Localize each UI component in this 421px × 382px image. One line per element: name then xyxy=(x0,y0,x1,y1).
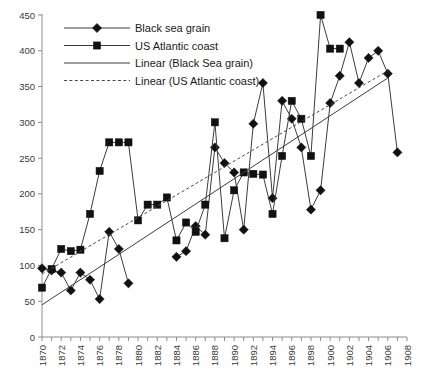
y-tick-label: 300 xyxy=(19,117,35,128)
data-point-black-sea-grain xyxy=(354,78,363,87)
data-point-us-atlantic-coast xyxy=(250,170,257,177)
x-tick-label: 1880 xyxy=(133,345,144,366)
data-point-us-atlantic-coast xyxy=(48,265,55,272)
data-point-us-atlantic-coast xyxy=(38,284,45,291)
y-tick-label: 350 xyxy=(19,81,35,92)
data-point-black-sea-grain xyxy=(124,279,133,288)
x-tick-label: 1888 xyxy=(209,345,220,366)
data-point-us-atlantic-coast xyxy=(106,139,113,146)
x-tick-label: 1900 xyxy=(325,345,336,366)
x-tick-label: 1890 xyxy=(229,345,240,366)
data-point-us-atlantic-coast xyxy=(336,45,343,52)
x-tick-label: 1872 xyxy=(56,345,67,366)
x-tick-label: 1908 xyxy=(402,345,413,366)
legend-marker-diamond xyxy=(92,23,101,32)
data-point-us-atlantic-coast xyxy=(298,115,305,122)
x-tick-label: 1876 xyxy=(94,345,105,366)
data-point-black-sea-grain xyxy=(278,96,287,105)
data-point-us-atlantic-coast xyxy=(144,201,151,208)
data-point-black-sea-grain xyxy=(66,286,75,295)
data-point-black-sea-grain xyxy=(297,143,306,152)
data-point-black-sea-grain xyxy=(57,268,66,277)
data-point-us-atlantic-coast xyxy=(96,167,103,174)
y-tick-label: 150 xyxy=(19,224,35,235)
x-tick-label: 1906 xyxy=(382,345,393,366)
line-chart: 0501001502002503003504004501870187218741… xyxy=(0,0,421,382)
data-point-us-atlantic-coast xyxy=(221,235,228,242)
x-tick-label: 1896 xyxy=(286,345,297,366)
data-point-black-sea-grain xyxy=(306,205,315,214)
x-tick-label: 1886 xyxy=(190,345,201,366)
x-tick-label: 1882 xyxy=(152,345,163,366)
x-tick-label: 1894 xyxy=(267,345,278,366)
data-point-black-sea-grain xyxy=(76,268,85,277)
trendline-us-atlantic-coast xyxy=(42,71,388,274)
data-point-black-sea-grain xyxy=(258,78,267,87)
trendline-black-sea-grain xyxy=(42,78,388,305)
x-tick-label: 1898 xyxy=(305,345,316,366)
y-tick-label: 0 xyxy=(30,332,35,343)
data-point-us-atlantic-coast xyxy=(163,194,170,201)
chart-container: 0501001502002503003504004501870187218741… xyxy=(0,0,421,382)
data-point-us-atlantic-coast xyxy=(279,152,286,159)
data-point-us-atlantic-coast xyxy=(211,119,218,126)
data-point-us-atlantic-coast xyxy=(327,45,334,52)
legend-marker-square xyxy=(93,42,100,49)
data-point-black-sea-grain xyxy=(374,46,383,55)
data-point-black-sea-grain xyxy=(239,225,248,234)
data-point-us-atlantic-coast xyxy=(307,152,314,159)
data-point-us-atlantic-coast xyxy=(202,201,209,208)
y-tick-label: 50 xyxy=(24,296,35,307)
legend-label: Black sea grain xyxy=(135,22,210,34)
data-point-us-atlantic-coast xyxy=(288,97,295,104)
data-point-black-sea-grain xyxy=(393,148,402,157)
data-point-us-atlantic-coast xyxy=(317,11,324,18)
data-point-black-sea-grain xyxy=(181,247,190,256)
data-point-us-atlantic-coast xyxy=(77,246,84,253)
y-tick-label: 100 xyxy=(19,260,35,271)
data-point-us-atlantic-coast xyxy=(115,139,122,146)
y-tick-label: 400 xyxy=(19,45,35,56)
legend-label: Linear (US Atlantic coast) xyxy=(135,75,259,87)
series-line-us-atlantic-coast xyxy=(42,15,340,288)
data-point-black-sea-grain xyxy=(345,38,354,47)
y-tick-label: 200 xyxy=(19,188,35,199)
data-point-black-sea-grain xyxy=(316,186,325,195)
data-point-black-sea-grain xyxy=(95,294,104,303)
data-point-black-sea-grain xyxy=(335,71,344,80)
data-point-us-atlantic-coast xyxy=(58,245,65,252)
x-tick-label: 1884 xyxy=(171,345,182,366)
x-tick-label: 1870 xyxy=(37,345,48,366)
data-point-black-sea-grain xyxy=(85,275,94,284)
data-point-us-atlantic-coast xyxy=(231,187,238,194)
data-point-black-sea-grain xyxy=(383,69,392,78)
data-point-black-sea-grain xyxy=(172,252,181,261)
x-tick-label: 1892 xyxy=(248,345,259,366)
data-point-black-sea-grain xyxy=(249,119,258,128)
data-point-us-atlantic-coast xyxy=(67,248,74,255)
data-point-us-atlantic-coast xyxy=(192,228,199,235)
data-point-us-atlantic-coast xyxy=(259,171,266,178)
data-point-us-atlantic-coast xyxy=(86,210,93,217)
legend-label: Linear (Black Sea grain) xyxy=(135,57,253,69)
x-tick-label: 1904 xyxy=(363,345,374,366)
data-point-us-atlantic-coast xyxy=(269,210,276,217)
x-tick-label: 1902 xyxy=(344,345,355,366)
y-tick-label: 250 xyxy=(19,153,35,164)
data-point-us-atlantic-coast xyxy=(125,139,132,146)
x-tick-label: 1878 xyxy=(113,345,124,366)
data-point-us-atlantic-coast xyxy=(182,219,189,226)
y-tick-label: 450 xyxy=(19,10,35,21)
x-tick-label: 1874 xyxy=(75,345,86,366)
data-point-us-atlantic-coast xyxy=(173,237,180,244)
data-point-black-sea-grain xyxy=(364,53,373,62)
data-point-us-atlantic-coast xyxy=(134,217,141,224)
legend-label: US Atlantic coast xyxy=(135,40,218,52)
